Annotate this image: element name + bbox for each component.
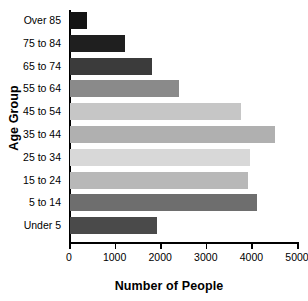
x-axis-tick-label: 5000: [275, 251, 308, 263]
x-axis-tick-label: 0: [47, 251, 91, 263]
bar-chart: Age Group Over 8575 to 8465 to 7455 to 6…: [0, 0, 308, 301]
y-axis-tick-label: Over 85: [0, 12, 64, 29]
bar: [70, 217, 157, 234]
y-axis-tick-label: Under 5: [0, 217, 64, 234]
y-axis-tick-labels: Over 8575 to 8465 to 7455 to 6445 to 543…: [0, 12, 64, 240]
x-axis-tick-label: 2000: [138, 251, 182, 263]
bar: [70, 58, 152, 75]
bar: [70, 103, 241, 120]
x-axis-tick-label: 1000: [93, 251, 137, 263]
bar: [70, 149, 250, 166]
x-axis-line: [69, 242, 297, 244]
y-axis-tick-label: 65 to 74: [0, 58, 64, 75]
y-axis-tick-label: 45 to 54: [0, 103, 64, 120]
x-axis-tick: [69, 242, 71, 249]
y-axis-tick-label: 35 to 44: [0, 126, 64, 143]
x-axis-tick: [297, 242, 299, 249]
x-axis-tick-label: 4000: [229, 251, 273, 263]
x-axis-title: Number of People: [40, 279, 298, 293]
bar: [70, 35, 125, 52]
y-axis-tick-label: 15 to 24: [0, 172, 64, 189]
y-axis-tick-label: 25 to 34: [0, 149, 64, 166]
plot-area: [69, 10, 297, 242]
x-axis-tick: [206, 242, 208, 249]
y-axis-tick-label: 5 to 14: [0, 194, 64, 211]
x-axis-tick-label: 3000: [184, 251, 228, 263]
bar: [70, 172, 248, 189]
bar: [70, 194, 257, 211]
x-axis-tick: [160, 242, 162, 249]
bar: [70, 126, 275, 143]
y-axis-tick-label: 75 to 84: [0, 35, 64, 52]
y-axis-tick-label: 55 to 64: [0, 80, 64, 97]
x-axis-tick: [115, 242, 117, 249]
x-axis-tick: [251, 242, 253, 249]
bar: [70, 12, 87, 29]
bar: [70, 80, 179, 97]
